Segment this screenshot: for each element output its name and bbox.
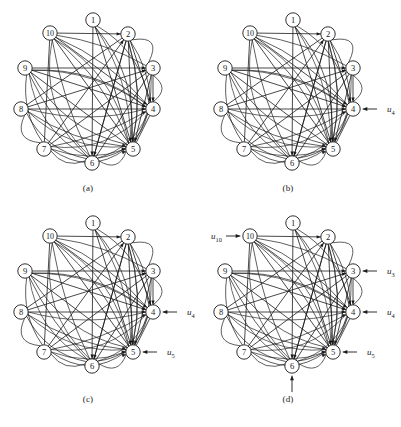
- node-1[interactable]: 1: [286, 216, 300, 230]
- node-9[interactable]: 9: [18, 264, 32, 278]
- node-6[interactable]: 6: [85, 359, 99, 373]
- node-5[interactable]: 5: [126, 345, 140, 359]
- node-label: 1: [91, 15, 95, 25]
- node-label: 3: [351, 63, 355, 73]
- arrowhead: [290, 152, 293, 156]
- node-label: 2: [326, 232, 330, 242]
- node-1[interactable]: 1: [86, 216, 100, 230]
- node-9[interactable]: 9: [18, 61, 32, 75]
- edge-straight: [57, 33, 121, 34]
- node-3[interactable]: 3: [146, 264, 160, 278]
- graph-diagram-d: 12345678910u10u3u4u5u6: [200, 205, 401, 395]
- node-label: 2: [126, 29, 130, 39]
- node-8[interactable]: 8: [214, 102, 228, 116]
- arrowhead: [117, 235, 121, 238]
- arrowhead: [363, 107, 368, 111]
- edge-curved: [332, 242, 353, 265]
- node-2[interactable]: 2: [321, 230, 335, 244]
- node-label: 8: [219, 307, 223, 317]
- node-10[interactable]: 10: [243, 229, 257, 243]
- input-label-u10: u10: [211, 231, 222, 242]
- panel-a: 12345678910: [0, 2, 201, 192]
- node-1[interactable]: 1: [86, 13, 100, 27]
- edge-straight: [257, 33, 321, 34]
- node-1[interactable]: 1: [286, 13, 300, 27]
- arrowhead: [290, 376, 294, 381]
- arrowhead: [363, 269, 368, 273]
- arrowhead: [236, 234, 241, 238]
- node-7[interactable]: 7: [37, 345, 51, 359]
- node-label: 8: [19, 307, 23, 317]
- node-label: 3: [151, 266, 155, 276]
- node-2[interactable]: 2: [121, 230, 135, 244]
- panel-caption-b: (b): [258, 183, 318, 193]
- node-label: 6: [290, 158, 294, 168]
- node-label: 1: [291, 15, 295, 25]
- graph-arrowheads: [90, 235, 154, 359]
- input-label-subscript: 4: [392, 312, 396, 319]
- node-7[interactable]: 7: [37, 142, 51, 156]
- input-label-subscript: 10: [216, 236, 222, 243]
- edge-straight: [248, 40, 324, 143]
- arrowhead: [342, 310, 346, 313]
- node-8[interactable]: 8: [14, 305, 28, 319]
- node-5[interactable]: 5: [326, 142, 340, 156]
- node-4[interactable]: 4: [346, 102, 360, 116]
- input-label-u3: u3: [387, 266, 395, 277]
- node-5[interactable]: 5: [326, 345, 340, 359]
- node-7[interactable]: 7: [237, 345, 251, 359]
- arrowhead: [142, 310, 146, 313]
- input-label-u4: u4: [387, 104, 396, 115]
- input-arrow-u5: u5: [343, 347, 375, 358]
- edge-straight: [54, 39, 129, 143]
- node-label: 3: [351, 266, 355, 276]
- arrowhead: [143, 350, 148, 354]
- figure-container: 12345678910(a)12345678910u4(b)1234567891…: [0, 0, 401, 427]
- node-label: 6: [90, 361, 94, 371]
- node-label: 2: [126, 232, 130, 242]
- panel-c: 12345678910u4u5: [0, 205, 201, 395]
- node-10[interactable]: 10: [243, 26, 257, 40]
- panel-d: 12345678910u10u3u4u5u6: [200, 205, 401, 395]
- node-3[interactable]: 3: [346, 61, 360, 75]
- node-label: 10: [46, 29, 54, 38]
- node-label: 5: [131, 144, 135, 154]
- input-label-u4: u4: [387, 307, 396, 318]
- node-4[interactable]: 4: [146, 305, 160, 319]
- edge-curved: [132, 242, 153, 265]
- node-3[interactable]: 3: [146, 61, 160, 75]
- arrowhead: [363, 310, 368, 314]
- edge-straight: [57, 236, 121, 237]
- node-label: 7: [42, 347, 46, 357]
- node-6[interactable]: 6: [85, 156, 99, 170]
- node-8[interactable]: 8: [214, 305, 228, 319]
- node-8[interactable]: 8: [14, 102, 28, 116]
- node-10[interactable]: 10: [43, 229, 57, 243]
- node-7[interactable]: 7: [237, 142, 251, 156]
- input-arrow-u3: u3: [363, 266, 395, 277]
- node-3[interactable]: 3: [346, 264, 360, 278]
- node-label: 3: [151, 63, 155, 73]
- node-10[interactable]: 10: [43, 26, 57, 40]
- node-9[interactable]: 9: [218, 61, 232, 75]
- node-4[interactable]: 4: [346, 305, 360, 319]
- node-label: 7: [242, 144, 246, 154]
- input-label-subscript: 5: [372, 352, 375, 359]
- node-9[interactable]: 9: [218, 264, 232, 278]
- node-6[interactable]: 6: [285, 156, 299, 170]
- arrowhead: [317, 235, 321, 238]
- edge-straight: [254, 242, 329, 346]
- arrowhead: [290, 355, 293, 359]
- node-label: 7: [42, 144, 46, 154]
- input-label-u5: u5: [367, 347, 375, 358]
- node-5[interactable]: 5: [126, 142, 140, 156]
- arrowhead: [142, 107, 146, 110]
- node-6[interactable]: 6: [285, 359, 299, 373]
- node-label: 1: [91, 218, 95, 228]
- node-4[interactable]: 4: [146, 102, 160, 116]
- node-2[interactable]: 2: [321, 27, 335, 41]
- node-2[interactable]: 2: [121, 27, 135, 41]
- node-label: 8: [19, 104, 23, 114]
- node-label: 9: [23, 63, 27, 73]
- node-label: 9: [23, 266, 27, 276]
